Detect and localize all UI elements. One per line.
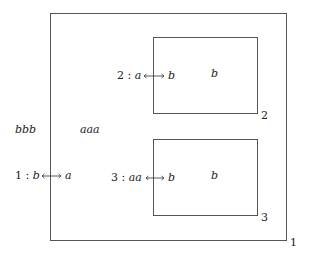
- link-2-from: a: [135, 69, 142, 82]
- inner-box-3-label: 3: [261, 212, 268, 224]
- free-text-bbb: bbb: [15, 124, 36, 136]
- link-3: 3 : aa: [111, 172, 142, 184]
- inner-box-3-content: b: [211, 170, 218, 182]
- free-text-aaa: aaa: [80, 124, 100, 136]
- link-3-from: aa: [129, 171, 142, 184]
- link-2-index: 2 :: [117, 69, 131, 82]
- link-3-to: b: [168, 172, 175, 184]
- link-2-to: b: [168, 70, 175, 82]
- double-arrow-icon: [143, 72, 165, 80]
- link-1-index: 1 :: [15, 169, 29, 182]
- inner-box-2-content: b: [211, 68, 218, 80]
- double-arrow-icon: [41, 172, 62, 180]
- link-2: 2 : a: [117, 70, 141, 82]
- double-arrow-icon: [145, 174, 165, 182]
- link-1: 1 : b: [15, 170, 40, 182]
- link-3-index: 3 :: [111, 171, 125, 184]
- link-1-to: a: [65, 170, 72, 182]
- link-1-from: b: [33, 169, 40, 182]
- inner-box-2-label: 2: [261, 110, 268, 122]
- outer-box-label: 1: [290, 237, 297, 249]
